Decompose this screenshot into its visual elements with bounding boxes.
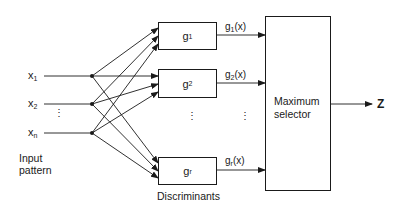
input-xn-label: xn — [28, 126, 37, 142]
discriminant-ellipsis: ⋮ — [187, 113, 193, 119]
out-arg: (x) — [234, 21, 246, 32]
box-sub: 1 — [189, 33, 193, 40]
output-ellipsis: ⋮ — [240, 113, 246, 119]
discriminants-label: Discriminants — [157, 190, 220, 202]
maximum-selector-label: Maximumselector — [274, 95, 320, 121]
discriminant-box-gr: gr — [158, 157, 217, 185]
input-sub: n — [34, 132, 38, 139]
out-arg: (x) — [234, 69, 246, 80]
input-pattern-label: Inputpattern — [19, 152, 52, 176]
input-x2-label: x2 — [28, 97, 37, 113]
output-grx-label: gr(x) — [225, 155, 245, 170]
input-pattern-line1: Input — [19, 152, 52, 164]
out-arg: (x) — [233, 155, 245, 166]
output-g2x-label: g2(x) — [225, 69, 246, 84]
selector-line2: selector — [274, 108, 320, 121]
selector-line1: Maximum — [274, 95, 320, 108]
maximum-selector-box: Maximumselector — [265, 16, 331, 191]
box-sub: 2 — [189, 80, 193, 87]
input-x1-label: x1 — [28, 69, 37, 85]
discriminant-box-g2: g2 — [158, 69, 217, 98]
input-ellipsis: ⋮ — [54, 110, 60, 116]
box-sub: r — [189, 168, 191, 175]
input-sub: 2 — [34, 103, 38, 110]
discriminant-box-g1: g1 — [158, 22, 217, 50]
input-pattern-line2: pattern — [19, 164, 52, 176]
output-g1x-label: g1(x) — [225, 21, 246, 36]
output-z-label: Z — [377, 97, 384, 111]
input-sub: 1 — [34, 75, 38, 82]
